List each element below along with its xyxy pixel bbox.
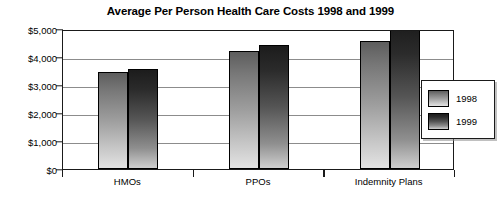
y-axis-label: $5,000 xyxy=(0,25,57,36)
bar-indemnity-plans-1998 xyxy=(360,41,390,169)
y-axis-label: $4,000 xyxy=(0,53,57,64)
bar-hmos-1998 xyxy=(98,72,128,169)
bar-hmos-1999 xyxy=(128,69,158,169)
legend-label: 1998 xyxy=(456,93,477,104)
x-axis-tick xyxy=(193,170,194,177)
x-axis-label-hmos: HMOs xyxy=(114,176,141,187)
legend-label: 1999 xyxy=(456,116,477,127)
legend-item-1999: 1999 xyxy=(428,111,477,132)
bar-ppos-1999 xyxy=(259,45,289,169)
y-axis-label: $2,000 xyxy=(0,109,57,120)
x-axis-tick xyxy=(323,170,324,177)
y-axis-label: $1,000 xyxy=(0,137,57,148)
y-axis-label: $3,000 xyxy=(0,81,57,92)
bar-ppos-1998 xyxy=(229,51,259,169)
chart-title: Average Per Person Health Care Costs 199… xyxy=(0,5,501,17)
x-axis-label-ppos: PPOs xyxy=(246,176,271,187)
y-axis-label: $0 xyxy=(0,165,57,176)
bar-indemnity-plans-1999 xyxy=(390,30,420,169)
legend-swatch-1998 xyxy=(428,90,449,107)
x-axis-tick xyxy=(62,170,63,177)
x-axis-tick xyxy=(454,170,455,177)
legend-item-1998: 1998 xyxy=(428,88,477,109)
chart-legend: 19981999 xyxy=(421,80,495,139)
x-axis-label-indemnity-plans: Indemnity Plans xyxy=(355,176,423,187)
legend-swatch-1999 xyxy=(428,113,449,130)
plot-area xyxy=(62,30,454,170)
bar-chart: Average Per Person Health Care Costs 199… xyxy=(0,0,501,200)
